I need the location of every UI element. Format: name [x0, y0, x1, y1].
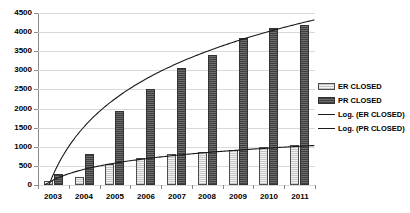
bar-er-closed-2006: [136, 158, 145, 186]
bar-pr-closed-2009: [239, 38, 248, 185]
legend-item-label: ER CLOSED: [338, 83, 382, 91]
x-axis-tick-label: 2009: [222, 192, 254, 201]
bar-er-closed-2007: [167, 154, 176, 185]
x-axis-tick-mark: [100, 185, 101, 189]
legend-swatch-marker: [318, 97, 335, 104]
bar-er-closed-2011: [290, 145, 299, 185]
bar-pr-closed-2010: [269, 28, 278, 185]
y-axis-tick-label: 1500: [0, 124, 32, 132]
legend-item-label: Log. (PR CLOSED): [338, 125, 405, 133]
y-axis-tick-label: 3500: [0, 47, 32, 55]
bar-pr-closed-2006: [146, 89, 155, 185]
bar-pr-closed-2007: [177, 68, 186, 185]
legend-item-log-pr-closed: Log. (PR CLOSED): [318, 122, 410, 135]
bar-er-closed-2008: [198, 152, 207, 185]
y-axis-tick-label: 0: [0, 181, 32, 189]
x-axis-tick-label: 2006: [130, 192, 162, 201]
x-axis-tick-label: 2007: [161, 192, 193, 201]
gridline: [38, 185, 315, 186]
y-axis-tick-label: 1000: [0, 143, 32, 151]
legend-item-label: Log. (ER CLOSED): [338, 111, 405, 119]
x-axis-tick-label: 2005: [99, 192, 131, 201]
bar-pr-closed-2011: [300, 25, 309, 186]
y-axis-tick-label: 4000: [0, 28, 32, 36]
x-axis-tick-mark: [161, 185, 162, 189]
legend-item-er-closed: ER CLOSED: [318, 80, 410, 93]
legend-swatch-marker: [318, 83, 335, 90]
bar-pr-closed-2004: [85, 154, 94, 185]
legend-item-pr-closed: PR CLOSED: [318, 94, 410, 107]
bar-er-closed-2010: [259, 147, 268, 185]
y-axis-tick-label: 2000: [0, 105, 32, 113]
x-axis-tick-mark: [315, 185, 316, 189]
bars-layer: [38, 13, 315, 185]
bar-er-closed-2005: [105, 164, 114, 185]
legend-line-marker: [318, 114, 335, 115]
x-axis-tick-label: 2004: [68, 192, 100, 201]
y-axis-tick-label: 3000: [0, 66, 32, 74]
legend-line-marker: [318, 128, 335, 129]
bar-pr-closed-2005: [115, 111, 124, 186]
y-axis-tick-label: 500: [0, 162, 32, 170]
x-axis-tick-label: 2003: [37, 192, 69, 201]
chart-container: 050010001500200025003000350040004500 200…: [0, 0, 410, 213]
chart-legend: ER CLOSEDPR CLOSEDLog. (ER CLOSED)Log. (…: [318, 80, 410, 136]
x-axis-tick-label: 2011: [284, 192, 316, 201]
bar-er-closed-2004: [75, 177, 84, 185]
x-axis-tick-mark: [284, 185, 285, 189]
x-axis-tick-label: 2010: [253, 192, 285, 201]
bar-er-closed-2003: [44, 181, 53, 185]
bar-pr-closed-2003: [54, 174, 63, 186]
y-axis-tick-label: 2500: [0, 85, 32, 93]
bar-pr-closed-2008: [208, 55, 217, 185]
legend-item-label: PR CLOSED: [338, 97, 382, 105]
bar-er-closed-2009: [229, 150, 238, 186]
x-axis-tick-mark: [192, 185, 193, 189]
x-axis-tick-mark: [253, 185, 254, 189]
x-axis-tick-mark: [130, 185, 131, 189]
x-axis-tick-mark: [223, 185, 224, 189]
y-axis-tick-label: 4500: [0, 9, 32, 17]
x-axis-tick-mark: [69, 185, 70, 189]
x-axis-tick-label: 2008: [191, 192, 223, 201]
x-axis-tick-mark: [38, 185, 39, 189]
legend-item-log-er-closed: Log. (ER CLOSED): [318, 108, 410, 121]
